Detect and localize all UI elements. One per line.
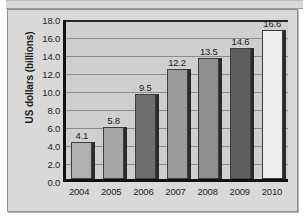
y-tick-label: 14.0 — [42, 51, 60, 62]
scan-artifact-strip — [6, 0, 303, 9]
y-tick-label: 0.0 — [47, 177, 60, 188]
plot-area: 4.15.89.512.213.514.616.6 — [63, 20, 288, 182]
x-tick-label: 2004 — [63, 186, 95, 197]
bar-2009[interactable]: 14.6 — [230, 48, 251, 179]
bar-slot: 5.8 — [98, 20, 130, 179]
bar-2010[interactable]: 16.6 — [262, 30, 283, 179]
x-tick-label: 2005 — [95, 186, 127, 197]
y-tick-label: 18.0 — [42, 15, 60, 26]
bar-slot: 12.2 — [161, 20, 193, 179]
y-tick-label: 6.0 — [47, 123, 60, 134]
y-tick-label: 12.0 — [42, 69, 60, 80]
y-axis-tick-labels: 18.016.014.012.010.08.06.04.02.00.0 — [30, 20, 60, 182]
bar-value-label: 16.6 — [263, 18, 281, 29]
y-tick-label: 10.0 — [42, 87, 60, 98]
x-tick-label: 2009 — [224, 186, 256, 197]
bar-slot: 4.1 — [66, 20, 98, 179]
bar-value-label: 12.2 — [168, 57, 186, 68]
bar-slot: 14.6 — [225, 20, 257, 179]
bar-2005[interactable]: 5.8 — [103, 127, 124, 179]
bar-2007[interactable]: 12.2 — [167, 69, 188, 179]
x-tick-label: 2007 — [159, 186, 191, 197]
bar-2008[interactable]: 13.5 — [198, 58, 219, 180]
bar-slot: 16.6 — [256, 20, 288, 179]
x-tick-label: 2006 — [127, 186, 159, 197]
bar-value-label: 4.1 — [76, 130, 89, 141]
bar-value-label: 14.6 — [232, 36, 250, 47]
bar-2006[interactable]: 9.5 — [135, 94, 156, 180]
y-tick-label: 8.0 — [47, 105, 60, 116]
bar-slot: 13.5 — [193, 20, 225, 179]
bar-value-label: 9.5 — [139, 82, 152, 93]
bar-series: 4.15.89.512.213.514.616.6 — [66, 20, 288, 179]
bar-chart-figure: US dollars (billions) 18.016.014.012.010… — [7, 9, 298, 212]
bar-value-label: 13.5 — [200, 46, 218, 57]
bar-value-label: 5.8 — [107, 115, 120, 126]
bar-2004[interactable]: 4.1 — [71, 142, 92, 179]
chart-page: US dollars (billions) 18.016.014.012.010… — [0, 0, 305, 218]
bar-slot: 9.5 — [129, 20, 161, 179]
x-tick-label: 2008 — [192, 186, 224, 197]
y-tick-label: 2.0 — [47, 159, 60, 170]
y-tick-label: 4.0 — [47, 141, 60, 152]
x-axis-tick-labels: 2004200520062007200820092010 — [63, 186, 288, 197]
y-tick-label: 16.0 — [42, 33, 60, 44]
x-tick-label: 2010 — [256, 186, 288, 197]
